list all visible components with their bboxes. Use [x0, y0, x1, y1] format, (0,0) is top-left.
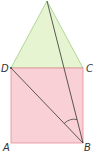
label-a: A — [2, 142, 10, 152]
vertex-d-dot — [10, 67, 12, 69]
label-c: C — [86, 63, 93, 74]
geometry-diagram: D C A B — [0, 0, 94, 152]
label-b: B — [84, 142, 91, 152]
triangle-dce — [11, 1, 83, 68]
label-d: D — [1, 63, 9, 74]
